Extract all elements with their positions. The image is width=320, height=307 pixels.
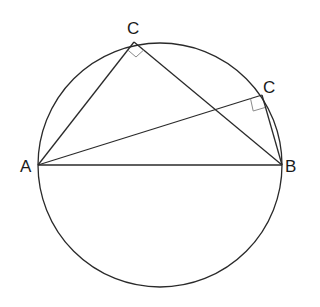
label-c1: C <box>127 19 139 38</box>
circle-diagram: A B C C <box>0 0 320 307</box>
label-a: A <box>20 157 32 176</box>
segment-c1-b <box>134 42 282 165</box>
segment-a-c1 <box>38 42 134 165</box>
label-b: B <box>285 157 296 176</box>
right-angle-marker-c1 <box>128 50 144 57</box>
label-c2: C <box>263 78 275 97</box>
segment-a-c2 <box>38 95 262 165</box>
segment-c2-b <box>262 95 282 165</box>
